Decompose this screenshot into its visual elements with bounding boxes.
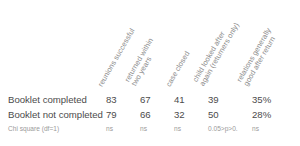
cell-booklet-completed-reunions-successful: 83 [106,92,117,107]
cell-chi-square-returned-within-two-years: ns [140,122,147,135]
table-row: Booklet completed 83 67 41 39 35% [0,92,300,107]
column-header-returned-within-two-years: returned within two years [123,37,162,88]
cell-booklet-not-completed-returned-within-two-years: 66 [140,107,151,122]
cell-chi-square-child-looked-after-again: 0.05>p>0. [208,122,238,135]
row-label-chi-square: Chi square (df=1) [8,122,59,135]
row-label-booklet-completed: Booklet completed [8,92,87,107]
column-header-relations-generally-good: relations generally good after return [235,27,280,88]
cell-booklet-completed-returned-within-two-years: 67 [140,92,151,107]
cell-chi-square-case-closed: ns [174,122,181,135]
cell-chi-square-relations-generally-good: ns [252,122,259,135]
column-header-case-closed: case closed [165,50,192,88]
cell-booklet-completed-case-closed: 41 [174,92,185,107]
cell-booklet-not-completed-case-closed: 32 [174,107,185,122]
table-row-chi-square: Chi square (df=1) ns ns ns 0.05>p>0. ns [0,122,300,135]
cell-chi-square-reunions-successful: ns [106,122,113,135]
table-header-row: reunions successful returned within two … [0,0,300,88]
column-header-line: case closed [165,50,192,88]
cell-booklet-not-completed-relations-generally-good: 28% [252,107,271,122]
cell-booklet-completed-relations-generally-good: 35% [252,92,271,107]
cell-booklet-not-completed-child-looked-after-again: 50 [208,107,219,122]
cell-booklet-completed-child-looked-after-again: 39 [208,92,219,107]
cell-booklet-not-completed-reunions-successful: 79 [106,107,117,122]
table-row: Booklet not completed 79 66 32 50 28% [0,107,300,122]
statistics-table: reunions successful returned within two … [0,0,300,146]
row-label-booklet-not-completed: Booklet not completed [8,107,103,122]
